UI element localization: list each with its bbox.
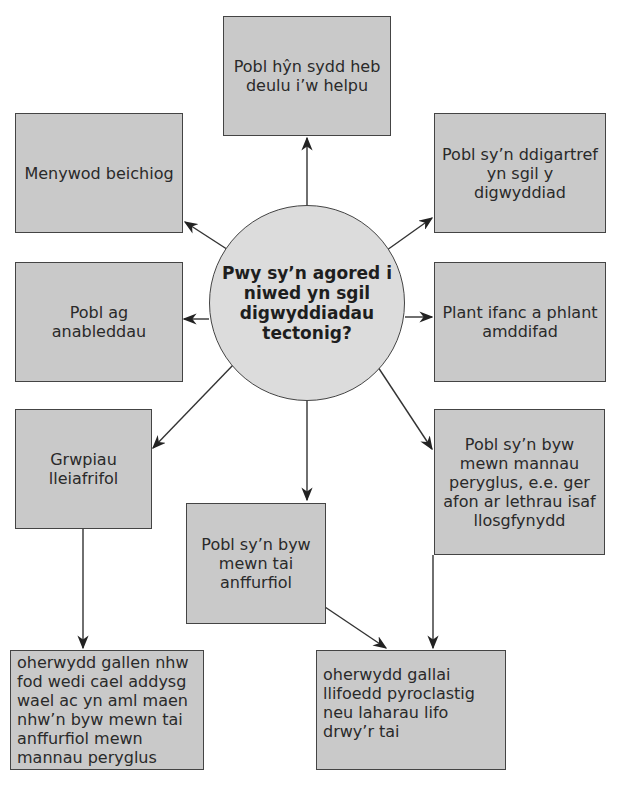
node-elderly-label: Pobl hŷn sydd heb deulu i’w helpu bbox=[228, 57, 386, 95]
node-disabled: Pobl ag anableddau bbox=[15, 262, 183, 382]
explanation-housing: oherwydd gallai llifoedd pyroclastig neu… bbox=[316, 650, 506, 770]
node-minorities-label: Grwpiau lleiafrifol bbox=[20, 450, 147, 488]
node-homeless: Pobl sy’n ddigartref yn sgil y digwyddia… bbox=[434, 113, 606, 233]
node-homeless-label: Pobl sy’n ddigartref yn sgil y digwyddia… bbox=[439, 145, 601, 202]
central-question-label: Pwy sy’n agored i niwed yn sgil digwyddi… bbox=[220, 263, 394, 343]
node-pregnant-label: Menywod beichiog bbox=[24, 164, 173, 183]
node-elderly: Pobl hŷn sydd heb deulu i’w helpu bbox=[223, 16, 391, 136]
node-hazardous-areas-label: Pobl sy’n byw mewn mannau peryglus, e.e.… bbox=[439, 435, 600, 530]
node-hazardous-areas: Pobl sy’n byw mewn mannau peryglus, e.e.… bbox=[434, 409, 605, 555]
explanation-minorities-text: oherwydd gallen nhw fod wedi cael addysg… bbox=[17, 653, 197, 767]
node-disabled-label: Pobl ag anableddau bbox=[20, 303, 178, 341]
explanation-housing-text: oherwydd gallai llifoedd pyroclastig neu… bbox=[323, 665, 499, 741]
node-pregnant: Menywod beichiog bbox=[15, 113, 183, 233]
node-children-label: Plant ifanc a phlant amddifad bbox=[439, 303, 601, 341]
node-informal-housing-label: Pobl sy’n byw mewn tai anffurfiol bbox=[191, 535, 321, 592]
node-informal-housing: Pobl sy’n byw mewn tai anffurfiol bbox=[186, 503, 326, 624]
central-question: Pwy sy’n agored i niwed yn sgil digwyddi… bbox=[209, 205, 405, 401]
node-children: Plant ifanc a phlant amddifad bbox=[434, 262, 606, 382]
node-minorities: Grwpiau lleiafrifol bbox=[15, 409, 152, 529]
explanation-minorities: oherwydd gallen nhw fod wedi cael addysg… bbox=[10, 650, 204, 770]
